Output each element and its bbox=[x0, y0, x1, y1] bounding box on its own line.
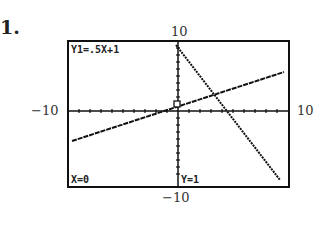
calculator-graph: Y1=.5X+1 X=0 Y=1 bbox=[0, 0, 320, 226]
trace-cursor bbox=[174, 101, 180, 107]
trace-y-label: Y=1 bbox=[181, 174, 199, 185]
trace-x-label: X=0 bbox=[71, 174, 89, 185]
equation-label: Y1=.5X+1 bbox=[71, 44, 119, 55]
